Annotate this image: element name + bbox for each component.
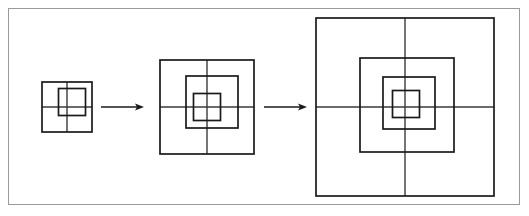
arrow-stage1-to-stage2: [101, 104, 144, 111]
stage-3-group: [316, 18, 494, 196]
figure-root: [0, 0, 529, 216]
stage-1-square-inner: [59, 89, 86, 116]
stage-3-square-inner: [393, 91, 420, 118]
stage-3-square-second: [360, 58, 454, 152]
stage-2-group: [160, 60, 254, 154]
nested-squares-diagram: [0, 0, 529, 216]
stage-1-group: [42, 82, 92, 132]
stage-3-square-third: [383, 77, 435, 129]
arrow-stage2-to-stage3: [264, 104, 307, 111]
